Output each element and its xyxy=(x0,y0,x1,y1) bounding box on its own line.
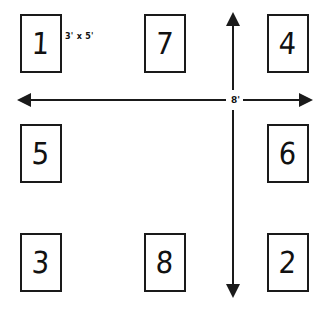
horizontal-dimension-line-left xyxy=(30,99,226,101)
booth-box[interactable]: 4 xyxy=(267,14,309,73)
span-dimension-label: 8' xyxy=(228,94,243,106)
horizontal-dimension-line-right xyxy=(243,99,300,101)
booth-number: 5 xyxy=(31,138,50,168)
diagram-canvas: 8' 3' x 5' 1 7 4 5 6 3 8 2 xyxy=(0,0,327,316)
booth-box[interactable]: 2 xyxy=(267,233,309,292)
box-size-label: 3' x 5' xyxy=(65,32,94,41)
booth-number: 1 xyxy=(31,28,50,58)
booth-number: 8 xyxy=(155,247,174,277)
booth-number: 7 xyxy=(155,28,174,58)
booth-box[interactable]: 7 xyxy=(144,14,186,73)
vertical-dimension-line-bottom xyxy=(232,110,234,286)
arrow-right-icon xyxy=(299,93,313,107)
booth-number: 6 xyxy=(278,138,297,168)
booth-number: 2 xyxy=(278,247,297,277)
booth-box[interactable]: 6 xyxy=(267,124,309,183)
booth-box[interactable]: 3 xyxy=(20,233,62,292)
arrow-down-icon xyxy=(226,284,240,298)
arrow-left-icon xyxy=(17,93,31,107)
booth-box[interactable]: 5 xyxy=(20,124,62,183)
arrow-up-icon xyxy=(226,12,240,26)
booth-box[interactable]: 8 xyxy=(144,233,186,292)
booth-box[interactable]: 1 xyxy=(20,14,62,73)
booth-number: 4 xyxy=(278,28,297,58)
vertical-dimension-line-top xyxy=(232,25,234,90)
booth-number: 3 xyxy=(31,247,50,277)
